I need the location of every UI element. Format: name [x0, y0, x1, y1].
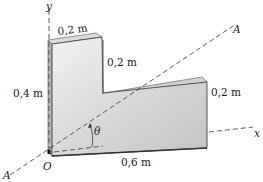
axis-A-top-label: A [232, 23, 241, 35]
origin-point [48, 150, 51, 154]
dim-right-height: 0,2 m [211, 86, 241, 98]
origin-label: O [43, 160, 52, 172]
diagram-canvas: y x O A A θ 0,2 m 0,2 m 0,4 m 0,2 m 0,6 … [0, 0, 263, 182]
dim-bottom-length: 0,6 m [121, 156, 151, 168]
y-axis-label: y [45, 0, 53, 12]
dim-step-height: 0,2 m [107, 56, 137, 68]
x-axis-label: x [254, 127, 260, 139]
dim-left-height: 0,4 m [13, 87, 43, 99]
x-axis [209, 127, 253, 132]
angle-label: θ [94, 125, 101, 137]
axis-A-bottom-label: A [2, 169, 11, 181]
l-shaped-plate [52, 37, 207, 156]
